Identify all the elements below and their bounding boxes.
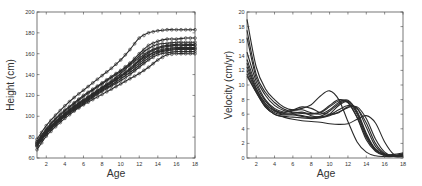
velocity-x-axis-label: Age	[317, 167, 336, 179]
x-tick-label: 14	[363, 161, 369, 167]
velocity-plot-frame	[247, 12, 403, 158]
y-tick-label: 6	[241, 111, 244, 117]
height-x-axis-label: Age	[107, 167, 126, 179]
y-tick-label: 140	[25, 72, 34, 78]
x-tick-label: 6	[82, 161, 85, 167]
y-tick-label: 60	[28, 155, 34, 161]
y-tick-label: 180	[25, 30, 34, 36]
y-tick-label: 14	[238, 53, 244, 59]
y-tick-label: 20	[238, 9, 244, 15]
x-tick-label: 18	[400, 161, 406, 167]
y-tick-label: 10	[238, 82, 244, 88]
y-tick-label: 16	[238, 38, 244, 44]
x-tick-label: 12	[136, 161, 142, 167]
y-tick-label: 100	[25, 113, 34, 119]
x-tick-label: 12	[345, 161, 351, 167]
x-tick-label: 16	[173, 161, 179, 167]
x-tick-label: 8	[101, 161, 104, 167]
x-tick-label: 8	[310, 161, 313, 167]
y-tick-label: 120	[25, 92, 34, 98]
x-tick-label: 6	[291, 161, 294, 167]
y-tick-label: 2	[241, 140, 244, 146]
x-tick-label: 4	[63, 161, 66, 167]
velocity-y-axis-label: Velocity (cm/yr)	[223, 51, 234, 119]
height-panel: 24681012141618 6080100120140160180200 Ag…	[5, 9, 198, 179]
y-tick-label: 12	[238, 67, 244, 73]
y-tick-label: 4	[241, 126, 244, 132]
x-tick-label: 2	[255, 161, 258, 167]
y-tick-label: 0	[241, 155, 244, 161]
height-y-axis-label: Height (cm)	[5, 59, 16, 111]
y-tick-label: 18	[238, 24, 244, 30]
x-tick-label: 18	[192, 161, 198, 167]
growth-figure: 24681012141618 6080100120140160180200 Ag…	[0, 0, 422, 186]
y-tick-label: 160	[25, 51, 34, 57]
y-tick-label: 200	[25, 9, 34, 15]
x-tick-label: 16	[382, 161, 388, 167]
x-tick-label: 2	[45, 161, 48, 167]
x-tick-label: 4	[273, 161, 276, 167]
x-tick-label: 14	[155, 161, 161, 167]
velocity-panel: 24681012141618 02468101214161820 Age Vel…	[223, 9, 406, 179]
y-tick-label: 80	[28, 134, 34, 140]
y-tick-label: 8	[241, 97, 244, 103]
